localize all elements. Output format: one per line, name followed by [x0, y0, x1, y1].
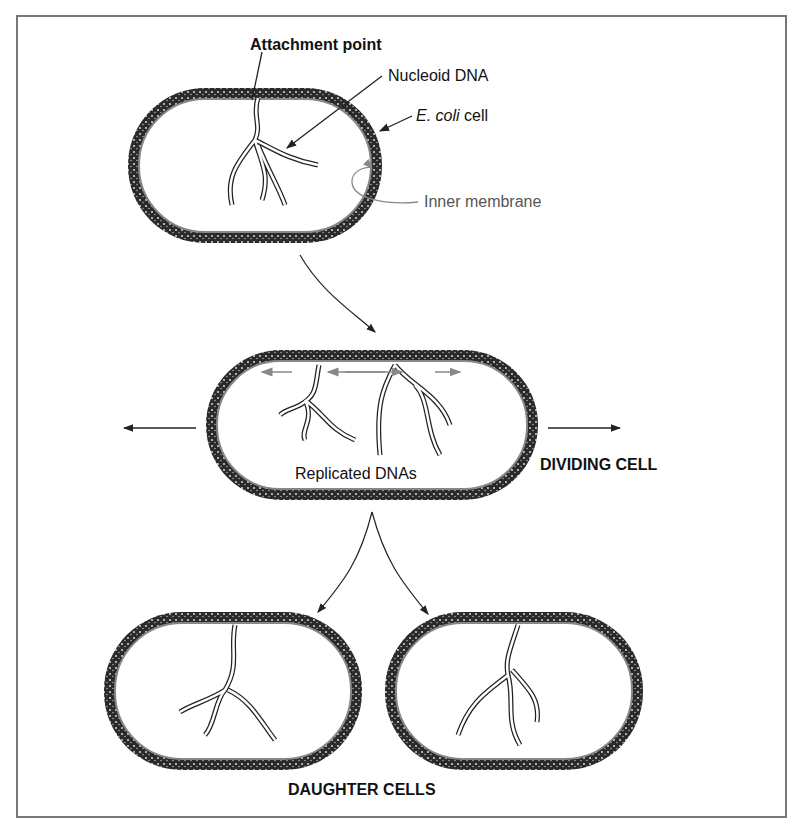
arrow-to-right-daughter: [372, 512, 428, 614]
label-replicated-dnas: Replicated DNAs: [295, 465, 417, 483]
label-ecoli-rest: cell: [460, 107, 488, 124]
label-daughter-cells: DAUGHTER CELLS: [288, 781, 436, 799]
ecoli-leader: [380, 116, 412, 131]
ecoli-cell-top: [128, 88, 382, 243]
label-ecoli-italic: E. coli: [416, 107, 460, 124]
label-nucleoid-dna: Nucleoid DNA: [388, 67, 488, 85]
label-dividing-cell: DIVIDING CELL: [540, 456, 657, 474]
arrow-to-dividing: [300, 255, 375, 332]
daughter-cell-right: [385, 612, 643, 770]
label-ecoli-cell: E. coli cell: [416, 107, 488, 125]
arrow-to-left-daughter: [318, 512, 372, 612]
daughter-cell-left: [104, 612, 362, 770]
label-attachment-point: Attachment point: [250, 36, 382, 54]
label-inner-membrane: Inner membrane: [424, 193, 541, 211]
diagram-canvas: [0, 0, 796, 838]
